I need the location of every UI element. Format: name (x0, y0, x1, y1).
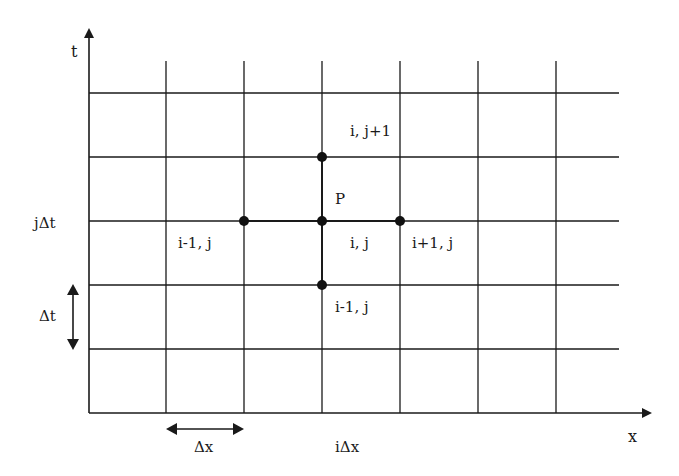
delta-t-arrow (67, 284, 79, 350)
node-i-jminus1 (317, 280, 327, 290)
point-p-label: P (335, 190, 345, 208)
delta-t-label: Δt (39, 307, 56, 325)
node-center-label: i, j (350, 234, 369, 252)
node-left-label: i-1, j (178, 234, 212, 252)
x-axis-label: x (628, 427, 637, 446)
node-bottom-label: i-1, j (335, 298, 369, 316)
delta-x-label: Δx (194, 438, 214, 456)
node-right-label: i+1, j (412, 234, 453, 252)
finite-difference-grid-diagram: t x jΔt Δt Δx iΔx P i, j+1 i-1, j i, j i… (0, 0, 679, 476)
delta-x-arrow (166, 423, 244, 435)
node-iminus1-j (239, 216, 249, 226)
i-delta-x-label: iΔx (335, 438, 360, 456)
node-top-label: i, j+1 (350, 122, 391, 140)
j-delta-t-label: jΔt (32, 214, 56, 232)
node-iplus1-j (395, 216, 405, 226)
node-i-j (317, 216, 327, 226)
t-axis-label: t (71, 42, 78, 61)
node-i-jplus1 (317, 152, 327, 162)
